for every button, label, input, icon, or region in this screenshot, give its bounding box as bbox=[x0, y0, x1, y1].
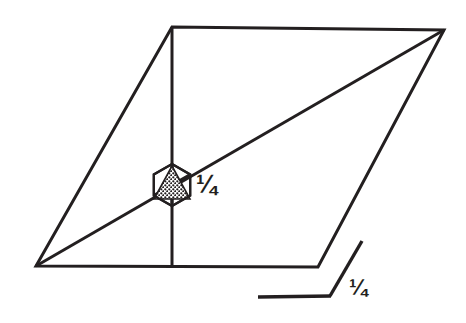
figure-canvas: ¼ ¼ bbox=[0, 0, 466, 323]
angle-quarter-label: ¼ bbox=[349, 277, 367, 299]
angle-marker-horizontal-arm bbox=[258, 296, 331, 297]
geometric-figure-svg bbox=[0, 0, 466, 323]
center-quarter-label: ¼ bbox=[196, 172, 217, 197]
